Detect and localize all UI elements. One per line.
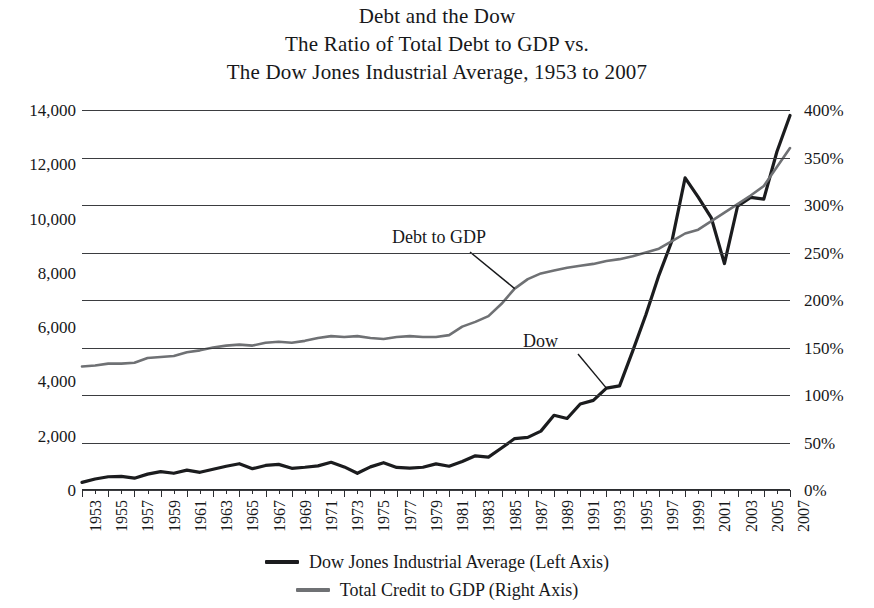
chart-legend: Dow Jones Industrial Average (Left Axis)… [0, 548, 874, 604]
x-tick-mark-minor [724, 490, 725, 494]
y-tick-label-right: 0% [804, 482, 874, 499]
x-tick-label: 1969 [298, 500, 314, 532]
x-tick-mark-minor [174, 490, 175, 494]
chart-title-line-1: Debt and the Dow [0, 2, 874, 30]
x-tick-mark-minor [593, 490, 594, 494]
x-tick-mark-minor [620, 490, 621, 494]
gridline [82, 443, 790, 444]
x-tick-mark-minor [462, 490, 463, 494]
x-tick-mark [82, 490, 83, 497]
x-tick-label: 1991 [586, 500, 602, 532]
x-tick-mark-minor [515, 490, 516, 494]
x-tick-label: 1963 [219, 500, 235, 532]
x-tick-label: 1955 [114, 500, 130, 532]
x-tick-mark [266, 490, 267, 497]
x-tick-mark-minor [541, 490, 542, 494]
x-tick-label: 1959 [167, 500, 183, 532]
legend-line-icon [265, 560, 299, 564]
y-tick-label-left: 10,000 [0, 211, 76, 228]
x-tick-mark-minor [567, 490, 568, 494]
x-tick-mark-minor [410, 490, 411, 494]
y-tick-label-right: 200% [804, 292, 874, 309]
chart-figure: Debt and the Dow The Ratio of Total Debt… [0, 0, 874, 608]
y-tick-label-left: 4,000 [0, 373, 76, 390]
gridline [82, 253, 790, 254]
x-tick-label: 1985 [508, 500, 524, 532]
legend-label-dow: Dow Jones Industrial Average (Left Axis) [309, 553, 609, 571]
x-tick-mark-minor [200, 490, 201, 494]
x-tick-mark [554, 490, 555, 497]
chart-title-line-2: The Ratio of Total Debt to GDP vs. [0, 30, 874, 58]
x-tick-mark [397, 490, 398, 497]
x-tick-mark-minor [777, 490, 778, 494]
x-tick-mark-minor [95, 490, 96, 494]
x-tick-mark [528, 490, 529, 497]
x-tick-label: 1987 [534, 500, 550, 532]
legend-label-credit: Total Credit to GDP (Right Axis) [340, 581, 579, 599]
x-tick-mark [239, 490, 240, 497]
y-tick-label-right: 250% [804, 245, 874, 262]
x-tick-mark [738, 490, 739, 497]
x-tick-mark [344, 490, 345, 497]
x-tick-mark [685, 490, 686, 497]
x-tick-mark [161, 490, 162, 497]
x-tick-mark [423, 490, 424, 497]
gridline [82, 300, 790, 301]
x-tick-label: 1995 [639, 500, 655, 532]
x-tick-label: 1999 [691, 500, 707, 532]
y-tick-label-left: 14,000 [0, 102, 76, 119]
x-tick-mark [659, 490, 660, 497]
x-tick-label: 1977 [403, 500, 419, 532]
x-tick-mark [370, 490, 371, 497]
x-tick-label: 1961 [193, 500, 209, 532]
gridline [82, 205, 790, 206]
x-tick-mark-minor [252, 490, 253, 494]
x-tick-mark-minor [357, 490, 358, 494]
legend-item-dow: Dow Jones Industrial Average (Left Axis) [0, 548, 874, 576]
gridline [82, 348, 790, 349]
x-tick-mark-minor [646, 490, 647, 494]
x-tick-label: 2005 [770, 500, 786, 532]
x-tick-label: 1997 [665, 500, 681, 532]
x-tick-label: 1989 [560, 500, 576, 532]
legend-line-icon [296, 588, 330, 592]
x-tick-label: 1973 [350, 500, 366, 532]
x-tick-mark-minor [279, 490, 280, 494]
gridline [82, 110, 790, 111]
x-tick-label: 1953 [88, 500, 104, 532]
y-tick-label-left: 0 [0, 482, 76, 499]
x-tick-mark [475, 490, 476, 497]
y-tick-label-right: 150% [804, 340, 874, 357]
x-tick-mark-minor [751, 490, 752, 494]
x-tick-label: 1975 [376, 500, 392, 532]
x-tick-mark-minor [331, 490, 332, 494]
y-tick-label-left: 6,000 [0, 319, 76, 336]
y-tick-label-right: 300% [804, 197, 874, 214]
y-tick-label-right: 350% [804, 150, 874, 167]
x-tick-mark-minor [436, 490, 437, 494]
x-tick-mark [580, 490, 581, 497]
x-tick-mark [134, 490, 135, 497]
x-tick-mark [633, 490, 634, 497]
annotation-leader-line [470, 252, 515, 289]
chart-title-block: Debt and the Dow The Ratio of Total Debt… [0, 2, 874, 86]
x-tick-label: 1967 [272, 500, 288, 532]
x-tick-label: 1983 [481, 500, 497, 532]
y-tick-label-left: 2,000 [0, 428, 76, 445]
chart-title-line-3: The Dow Jones Industrial Average, 1953 t… [0, 58, 874, 86]
x-tick-mark-minor [488, 490, 489, 494]
series-line-dow [82, 115, 790, 482]
x-tick-mark-minor [226, 490, 227, 494]
x-tick-mark [318, 490, 319, 497]
x-tick-mark [187, 490, 188, 497]
x-tick-mark [764, 490, 765, 497]
x-tick-mark [449, 490, 450, 497]
x-tick-mark [606, 490, 607, 497]
x-tick-mark [502, 490, 503, 497]
x-tick-mark-minor [384, 490, 385, 494]
x-tick-mark-minor [698, 490, 699, 494]
x-tick-mark-minor [121, 490, 122, 494]
x-tick-label: 1993 [612, 500, 628, 532]
annotation-label: Dow [523, 332, 558, 350]
gridline [82, 158, 790, 159]
